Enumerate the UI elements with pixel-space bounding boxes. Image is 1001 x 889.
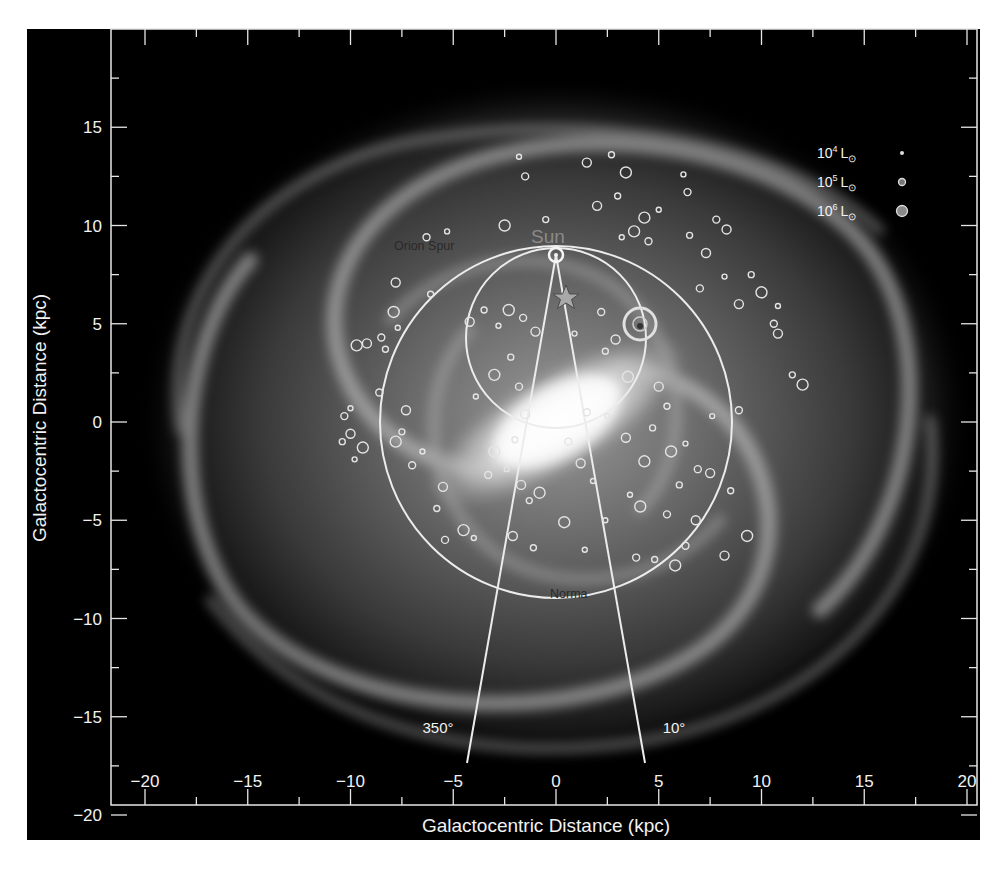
x-tick-label: −5 bbox=[444, 772, 463, 791]
y-tick-label: 0 bbox=[93, 413, 102, 432]
x-tick-label: −20 bbox=[131, 772, 160, 791]
x-tick-label: −15 bbox=[233, 772, 262, 791]
legend-marker bbox=[897, 206, 908, 217]
x-tick-label: 10 bbox=[752, 772, 771, 791]
y-tick-label: 5 bbox=[93, 315, 102, 334]
x-tick-label: −10 bbox=[336, 772, 365, 791]
x-axis-label: Galactocentric Distance (kpc) bbox=[422, 815, 670, 836]
legend-marker bbox=[899, 179, 906, 186]
y-tick-label: −20 bbox=[73, 806, 102, 825]
y-tick-label: −10 bbox=[73, 610, 102, 629]
galaxy-map-figure: Sun Orion Spur Norma 350° 10° 104L⊙105L⊙… bbox=[0, 0, 1001, 889]
y-tick-label: 10 bbox=[83, 217, 102, 236]
y-axis-label: Galactocentric Distance (kpc) bbox=[29, 294, 50, 542]
legend-marker bbox=[900, 151, 904, 155]
y-tick-label: −15 bbox=[73, 708, 102, 727]
annotation-orion-spur: Orion Spur bbox=[394, 239, 454, 253]
x-tick-label: 20 bbox=[958, 772, 977, 791]
y-tick-label: −5 bbox=[83, 511, 102, 530]
x-tick-label: 15 bbox=[855, 772, 874, 791]
annotation-sun: Sun bbox=[531, 226, 565, 247]
galaxy-image bbox=[136, 75, 976, 765]
x-tick-label: 5 bbox=[654, 772, 663, 791]
x-tick-label: 0 bbox=[551, 772, 560, 791]
y-tick-label: 15 bbox=[83, 118, 102, 137]
annotation-norma: Norma bbox=[550, 587, 588, 601]
annotation-350-deg: 350° bbox=[422, 719, 453, 736]
chart-canvas: Sun Orion Spur Norma 350° 10° 104L⊙105L⊙… bbox=[0, 0, 1001, 889]
annotation-10-deg: 10° bbox=[663, 719, 686, 736]
